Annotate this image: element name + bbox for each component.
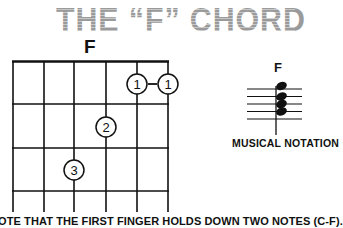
finger-marker-2: 2	[96, 117, 116, 137]
finger-number: 3	[70, 163, 77, 178]
finger-number: 1	[133, 77, 140, 92]
finger-number: 1	[164, 77, 171, 92]
notation-label: MUSICAL NOTATION	[232, 137, 339, 149]
notation-chord-name: F	[274, 60, 282, 75]
musical-staff	[247, 89, 302, 119]
finger-marker-1a: 1	[127, 74, 147, 94]
caption-text: OTE THAT THE FIRST FINGER HOLDS DOWN TWO…	[0, 215, 343, 227]
notehead-c	[275, 80, 288, 91]
finger-marker-1b: 1	[158, 74, 178, 94]
chord-noteheads	[275, 80, 288, 117]
finger-marker-3: 3	[64, 160, 84, 180]
finger-number: 2	[102, 120, 109, 135]
notehead-low-c	[275, 106, 288, 117]
